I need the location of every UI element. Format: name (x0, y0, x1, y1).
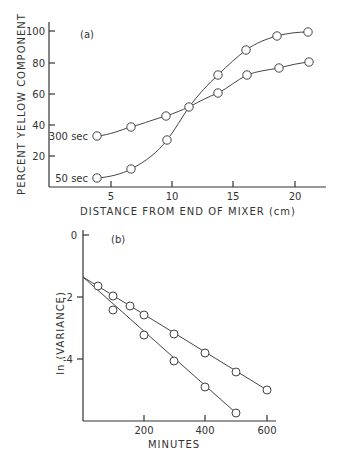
a-xtick-label: 20 (289, 191, 302, 202)
a-xtick-label: 15 (227, 191, 240, 202)
a-x-axis-label: DISTANCE FROM END OF MIXER (cm) (80, 206, 296, 217)
b-panel-label: (b) (111, 234, 125, 245)
b-xtick-label: 400 (195, 425, 214, 436)
a-curve-50sec (97, 32, 308, 178)
b-xtick-label: 600 (257, 425, 276, 436)
b-y-ticks: 0 -2 -4 (63, 230, 89, 365)
a-ytick-label: 20 (32, 151, 45, 162)
b-xtick-label: 200 (134, 425, 153, 436)
chart-b: 0 -2 -4 200 400 600 MINUTES ln (VARIANCE… (55, 230, 277, 450)
a-series-label-50sec: 50 sec (55, 173, 88, 184)
b-line-fast (83, 277, 236, 413)
a-x-ticks: 5 10 15 20 (108, 181, 302, 202)
a-panel-label: (a) (80, 29, 94, 40)
b-y-axis-label: ln (VARIANCE) (55, 291, 66, 375)
a-ytick-label: 60 (32, 89, 45, 100)
a-series-label-300sec: 300 sec (49, 131, 88, 142)
chart-a: 20 40 60 80 100 5 10 15 20 DISTANCE FROM… (16, 13, 326, 217)
a-xtick-label: 10 (166, 191, 179, 202)
a-points-300sec (93, 58, 313, 140)
figure: 20 40 60 80 100 5 10 15 20 DISTANCE FROM… (0, 0, 340, 454)
a-points-50sec (93, 28, 312, 182)
a-y-axis-label: PERCENT YELLOW COMPONENT (16, 13, 27, 195)
b-x-ticks: 200 400 600 (134, 415, 276, 436)
a-xtick-label: 5 (108, 191, 114, 202)
a-ytick-label: 40 (32, 120, 45, 131)
b-ytick-label: 0 (71, 230, 77, 241)
a-ytick-label: 100 (26, 26, 45, 37)
b-x-axis-label: MINUTES (148, 439, 200, 450)
a-ytick-label: 80 (32, 58, 45, 69)
